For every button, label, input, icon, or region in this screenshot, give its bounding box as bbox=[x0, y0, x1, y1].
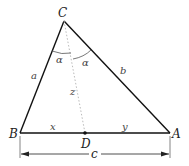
point-d-dot bbox=[83, 131, 87, 135]
point-label-d: D bbox=[80, 137, 91, 151]
angle-label-left: α bbox=[56, 54, 63, 65]
segment-label-y: y bbox=[121, 121, 128, 132]
segment-label-x: x bbox=[50, 121, 56, 132]
vertex-label-a: A bbox=[171, 127, 181, 141]
vertex-label-b: B bbox=[8, 127, 18, 141]
side-label-a: a bbox=[31, 70, 37, 81]
side-b-line bbox=[64, 21, 170, 133]
bisector-z-line bbox=[64, 21, 85, 133]
triangle-diagram: C B A D a b c x y z α α bbox=[0, 0, 189, 166]
arrowhead-left-icon bbox=[21, 152, 29, 157]
vertex-label-c: C bbox=[58, 6, 67, 20]
segment-label-z: z bbox=[69, 86, 76, 97]
side-label-b: b bbox=[120, 65, 126, 76]
side-a-line bbox=[20, 21, 64, 133]
angle-label-right: α bbox=[82, 57, 89, 68]
arrowhead-right-icon bbox=[161, 152, 169, 157]
dimension-label-c: c bbox=[91, 147, 98, 161]
